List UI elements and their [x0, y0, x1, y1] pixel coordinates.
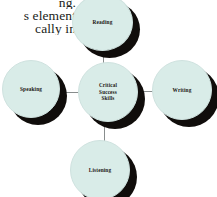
node-listening[interactable]: Listening: [70, 140, 130, 197]
node-speaking[interactable]: Speaking: [2, 60, 60, 118]
node-critical-success-skills[interactable]: Critical Success Skills: [78, 62, 138, 122]
node-writing-label: Writing: [169, 87, 196, 93]
diagram-screenshot: ng. s element cally in Reading Speaking …: [0, 0, 217, 197]
node-reading-label: Reading: [89, 19, 117, 25]
node-center-label-line-3: Skills: [101, 95, 114, 101]
node-speaking-label: Speaking: [16, 86, 46, 92]
node-center-label-line-1: Critical: [99, 82, 117, 88]
node-writing[interactable]: Writing: [152, 60, 212, 120]
document-text-line-1: ng.: [0, 0, 76, 9]
node-center-label: Critical Success Skills: [95, 82, 121, 101]
document-text-line-2: s element: [0, 9, 76, 22]
node-listening-label: Listening: [85, 167, 116, 173]
node-center-label-line-2: Success: [99, 89, 117, 95]
document-body-text: ng. s element cally in: [0, 0, 76, 35]
document-text-line-3: cally in: [0, 22, 76, 35]
